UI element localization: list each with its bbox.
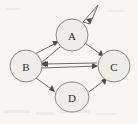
edge-b-to-d <box>36 78 55 92</box>
edge-a-to-a-self-loop <box>83 5 98 24</box>
graph-diagram-canvas: A B C D <box>0 0 138 124</box>
node-a[interactable]: A <box>56 19 88 51</box>
edge-c-to-b-line <box>43 63 97 64</box>
node-b-label: B <box>22 61 29 73</box>
node-d-label: D <box>68 92 76 104</box>
node-d[interactable]: D <box>55 82 89 112</box>
node-b[interactable]: B <box>10 50 42 82</box>
node-a-label: A <box>68 30 76 42</box>
edge-b-to-c-arrowhead <box>92 63 98 69</box>
node-c[interactable]: C <box>98 50 130 82</box>
edge-b-to-a <box>35 41 59 54</box>
edge-a-to-c <box>85 43 104 57</box>
graph-svg: A B C D <box>0 0 138 124</box>
edge-b-to-d-arrowhead <box>49 85 55 92</box>
node-c-label: C <box>110 61 117 73</box>
edge-d-to-c <box>89 78 107 92</box>
edge-b-to-c-line <box>42 66 97 68</box>
